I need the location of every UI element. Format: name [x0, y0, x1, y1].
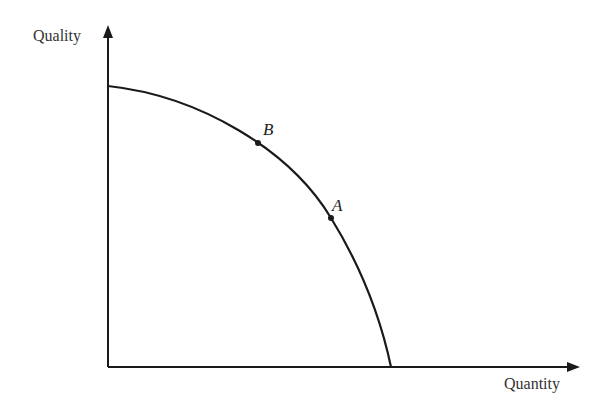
point-b-label: B [263, 120, 273, 140]
x-axis-arrow-icon [567, 362, 580, 372]
y-axis-label: Quality [33, 27, 81, 45]
diagram-graphics [0, 0, 611, 414]
x-axis-label: Quantity [504, 375, 560, 393]
point-b-marker [255, 140, 261, 146]
ppf-diagram: Quality Quantity B A [0, 0, 611, 414]
y-axis-arrow-icon [103, 25, 113, 38]
point-a-label: A [332, 196, 342, 216]
frontier-curve [108, 86, 391, 367]
